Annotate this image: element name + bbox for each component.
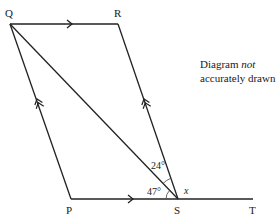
geometry-diagram: Q R P S T 24° 47° x Diagram not accurate… (0, 0, 280, 224)
arc-qsr (163, 178, 171, 183)
single-arrow-marks (67, 20, 133, 203)
angle-label-psq: 47° (147, 186, 161, 197)
label-t: T (249, 204, 256, 216)
accuracy-note-line1: Diagram not (200, 58, 256, 70)
label-r: R (114, 7, 122, 19)
segment-qp (10, 24, 71, 199)
label-s: S (174, 204, 180, 216)
arc-psq (166, 190, 170, 199)
double-arrow-icon-rs (140, 98, 150, 109)
label-p: P (66, 204, 72, 216)
segment-rs (118, 24, 178, 199)
label-q: Q (5, 7, 13, 19)
diagonal-qs (10, 24, 178, 199)
angle-label-qsr: 24° (151, 160, 165, 171)
double-arrow-marks (33, 98, 150, 109)
angle-label-x: x (183, 185, 189, 196)
diagram-lines (10, 24, 253, 199)
accuracy-note-line2: accurately drawn (200, 72, 276, 84)
angle-arcs (163, 178, 171, 199)
